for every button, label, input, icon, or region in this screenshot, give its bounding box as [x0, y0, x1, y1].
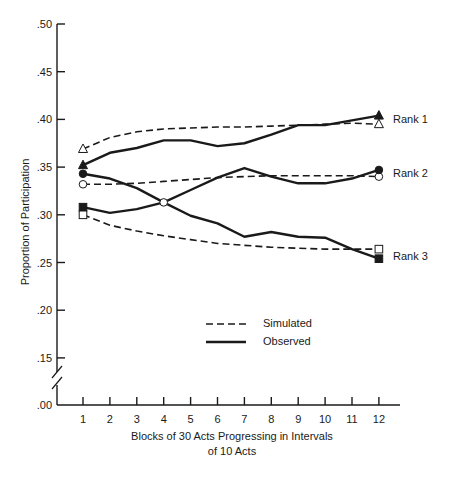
- y-tick-label: .30: [37, 209, 52, 221]
- y-tick-label: .35: [37, 161, 52, 173]
- x-tick-label: 10: [319, 413, 331, 425]
- x-tick-label: 11: [346, 413, 357, 425]
- filled-square-marker: [79, 203, 87, 211]
- rank-1-label: Rank 1: [393, 113, 428, 125]
- open-circle-marker: [160, 199, 168, 207]
- filled-circle-marker: [79, 170, 87, 178]
- legend: Simulated Observed: [206, 317, 312, 347]
- series-line-2: [83, 176, 379, 185]
- open-triangle-marker: [374, 119, 383, 128]
- y-tick-label: .00: [37, 399, 52, 411]
- open-circle-marker: [79, 180, 87, 188]
- x-tick-label: 7: [241, 413, 247, 425]
- x-tick-label: 4: [161, 413, 167, 425]
- markers-group: [79, 111, 384, 263]
- series-group: [83, 116, 379, 259]
- y-tick-label: .20: [37, 304, 52, 316]
- x-tick-label: 2: [107, 413, 113, 425]
- y-tick-label: .25: [37, 257, 52, 269]
- series-line-1: [83, 116, 379, 166]
- rank-3-label: Rank 3: [393, 250, 428, 262]
- filled-square-marker: [375, 255, 383, 263]
- rank-2-label: Rank 2: [393, 167, 428, 179]
- x-tick-label: 8: [268, 413, 274, 425]
- y-axis-title: Proportion of Participation: [19, 159, 31, 286]
- open-square-marker: [375, 245, 383, 253]
- series-line-4: [83, 168, 379, 213]
- y-tick-label: .40: [37, 113, 52, 125]
- x-tick-label: 5: [188, 413, 194, 425]
- filled-triangle-marker: [374, 111, 383, 120]
- x-axis-title-line2: of 10 Acts: [208, 445, 257, 457]
- legend-observed-label: Observed: [263, 335, 311, 347]
- x-tick-label: 12: [373, 413, 385, 425]
- x-tick-label: 1: [80, 413, 86, 425]
- filled-circle-marker: [375, 166, 383, 174]
- series-line-3: [83, 174, 379, 259]
- x-axis-title-line1: Blocks of 30 Acts Progressing in Interva…: [131, 430, 333, 442]
- line-chart: .00.15.20.25.30.35.40.45.501234567891011…: [0, 0, 451, 482]
- x-tick-label: 3: [134, 413, 140, 425]
- legend-simulated-label: Simulated: [263, 317, 312, 329]
- open-square-marker: [79, 211, 87, 219]
- axes: .00.15.20.25.30.35.40.45.501234567891011…: [37, 18, 400, 425]
- y-tick-label: .45: [37, 66, 52, 78]
- x-tick-label: 9: [295, 413, 301, 425]
- y-tick-label: .50: [37, 18, 52, 30]
- y-tick-label: .15: [37, 352, 52, 364]
- series-line-5: [83, 215, 379, 249]
- x-tick-label: 6: [214, 413, 220, 425]
